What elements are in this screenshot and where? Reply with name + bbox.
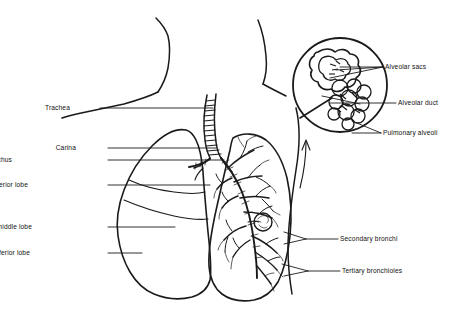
lung-anatomy-diagram: TracheaCarinaRight primary bronchusRight… xyxy=(0,0,458,321)
right-lung-oblique-fissure xyxy=(124,200,208,219)
left-primary-bronchus-path xyxy=(221,158,257,278)
left-bronchus-rings xyxy=(222,160,262,258)
secondary-bronchus-middle-1 xyxy=(240,197,269,199)
secondary-bronchus-upper-2 xyxy=(234,176,262,182)
alveolar-duct-path xyxy=(300,98,332,118)
secondary-bronchus-left-2 xyxy=(222,196,238,208)
label-trachea: Trachea xyxy=(45,104,70,111)
secondary-bronchus-left-4 xyxy=(233,240,250,257)
right-pointer-arrows xyxy=(282,121,381,276)
neck-right-outline xyxy=(258,20,266,84)
right-lung-hilum-notch xyxy=(195,168,203,180)
alveolar-sac-outline xyxy=(310,49,361,91)
label-right-middle-lobe: Right middle lobe xyxy=(0,223,32,230)
label-secondary-bronchi: Secondary bronchi xyxy=(340,235,398,242)
shoulder-right-outline xyxy=(263,84,286,96)
magnify-arrow xyxy=(300,140,310,188)
label-right-superior-lobe: Right superior lobe xyxy=(0,181,28,188)
body-outline-group xyxy=(62,18,299,294)
label-right-inferior-lobe: Right inferior lobe xyxy=(0,249,30,256)
secondary-bronchus-upper-1 xyxy=(228,150,254,168)
left-lung-group xyxy=(209,134,291,301)
label-pulmonary-alveoli: Pulmonary alveoli xyxy=(383,129,438,136)
label-right-primary-bronchus: Right primary bronchus xyxy=(0,156,12,163)
neck-left-outline xyxy=(156,18,170,92)
right-lung-horizontal-fissure xyxy=(129,180,205,194)
right-lung-group xyxy=(117,130,211,299)
trachea-left-wall xyxy=(204,95,210,158)
label-alveolar-sacs: Alveolar sacs xyxy=(385,63,426,70)
label-tertiary-bronchioles: Tertiary bronchioles xyxy=(342,267,402,274)
alveolar-sac-shading xyxy=(329,61,344,74)
alveoli-magnifier-group xyxy=(293,38,387,132)
tertiary-bronchiole-3 xyxy=(257,266,271,284)
shoulder-left-outline xyxy=(62,92,158,118)
label-carina: Carina xyxy=(56,144,76,151)
label-alveolar-duct: Alveolar duct xyxy=(398,99,438,106)
